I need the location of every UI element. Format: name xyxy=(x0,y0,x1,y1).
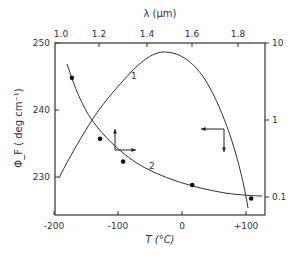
data-point xyxy=(190,183,195,188)
x-tick-label: -100 xyxy=(108,221,129,231)
arrow-right-icon-head xyxy=(131,148,136,152)
x2-tick-label: 1.2 xyxy=(92,29,106,39)
arrow-up-icon-head xyxy=(113,129,117,134)
x2-tick-label: 1.4 xyxy=(140,29,155,39)
curve-2 xyxy=(67,64,262,196)
bottom-axis-label: T (°C) xyxy=(145,234,174,245)
curve-1 xyxy=(59,52,248,208)
x-tick-label: -200 xyxy=(44,221,65,231)
x2-tick-label: 1.0 xyxy=(54,29,69,39)
x2-tick-label: 1.8 xyxy=(231,29,246,39)
x-tick-label: +100 xyxy=(234,221,259,231)
arrow-down-icon-head xyxy=(222,147,226,152)
curve-2-label: 2 xyxy=(149,161,155,171)
data-point xyxy=(70,76,75,81)
y2-tick-label: 1 xyxy=(272,115,278,125)
data-point xyxy=(249,196,254,201)
curve-1-label: 1 xyxy=(131,71,137,81)
top-axis-label: λ (µm) xyxy=(143,8,176,19)
y-tick-label: 240 xyxy=(33,105,50,115)
arrow-left-icon-head xyxy=(201,127,206,131)
left-axis-label: Φ_F ( deg cm⁻¹) xyxy=(13,88,25,167)
y2-tick-label: 10 xyxy=(272,38,284,48)
x-tick-label: 0 xyxy=(179,221,185,231)
y-tick-label: 230 xyxy=(33,172,50,182)
x2-tick-label: 1.6 xyxy=(185,29,200,39)
y-tick-label: 250 xyxy=(33,38,50,48)
chart-figure: -200-1000+1002302402501.01.21.41.61.80.1… xyxy=(0,0,295,258)
data-point xyxy=(121,159,126,164)
faraday-rotation-chart: -200-1000+1002302402501.01.21.41.61.80.1… xyxy=(0,0,295,258)
y2-tick-label: 0.1 xyxy=(272,192,286,202)
data-point xyxy=(98,137,103,142)
